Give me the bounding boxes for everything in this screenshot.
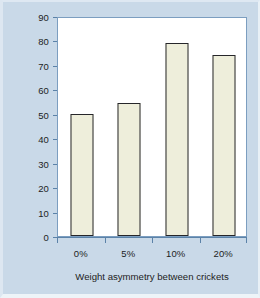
x-axis-tick-label: 0% xyxy=(74,248,88,259)
x-axis-tick-label: 20% xyxy=(214,248,233,259)
y-axis-tick-label: 70 xyxy=(38,60,49,71)
y-axis-tick-label: 40 xyxy=(38,134,49,145)
x-axis-title: Weight asymmetry between crickets xyxy=(57,271,247,282)
y-axis-tick-label: 0 xyxy=(44,232,49,243)
bar-20pct[interactable] xyxy=(213,55,236,236)
bar-5pct[interactable] xyxy=(118,103,141,236)
y-axis-tick-label: 80 xyxy=(38,36,49,47)
x-axis-tick xyxy=(105,237,106,243)
bar-slot xyxy=(201,18,249,236)
y-axis-tick-label: 20 xyxy=(38,183,49,194)
x-axis-tick xyxy=(57,237,58,243)
x-axis-tick-label: 10% xyxy=(166,248,185,259)
y-axis-tick-label: 90 xyxy=(38,12,49,23)
y-axis-tick-label: 30 xyxy=(38,158,49,169)
x-axis-tick xyxy=(246,237,247,243)
bar-10pct[interactable] xyxy=(165,43,188,236)
x-axis-tick xyxy=(200,237,201,243)
bar-chart-figure: 0102030405060708090 0%5%10%20% Probabili… xyxy=(0,0,260,298)
y-axis-tick-label: 60 xyxy=(38,85,49,96)
bar-0pct[interactable] xyxy=(70,114,93,236)
y-axis-tick-label: 10 xyxy=(38,207,49,218)
x-axis-tick xyxy=(152,237,153,243)
x-axis-tick-label: 5% xyxy=(121,248,135,259)
x-axis: 0%5%10%20% xyxy=(57,237,247,238)
bar-slot xyxy=(153,18,201,236)
bar-slot xyxy=(58,18,106,236)
plot-area xyxy=(57,17,247,237)
y-axis: 0102030405060708090 xyxy=(57,17,58,237)
y-axis-line xyxy=(57,17,58,237)
bar-slot xyxy=(106,18,154,236)
y-axis-tick-label: 50 xyxy=(38,109,49,120)
